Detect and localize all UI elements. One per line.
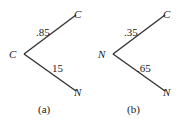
leaf-a-upper: C [74, 9, 81, 20]
prob-a-upper: .85 [36, 27, 50, 38]
leaf-a-lower: N [74, 87, 81, 98]
branch-b-upper [113, 15, 165, 54]
caption-a: (a) [38, 104, 50, 115]
branch-a-lower [24, 54, 76, 91]
prob-b-upper: .35 [124, 27, 138, 38]
leaf-b-lower: N [163, 87, 170, 98]
caption-b: (b) [127, 104, 140, 115]
prob-a-lower: 15 [52, 63, 63, 74]
tree-lines [0, 0, 181, 129]
branch-a-upper [24, 15, 76, 54]
leaf-b-upper: C [163, 9, 170, 20]
root-a: C [9, 49, 16, 60]
root-b: N [98, 49, 105, 60]
prob-b-lower: .65 [137, 63, 151, 74]
